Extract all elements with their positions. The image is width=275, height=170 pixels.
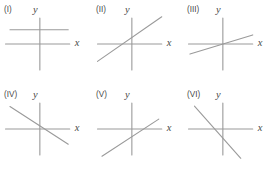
y-axis-label: y xyxy=(32,89,38,100)
diagram-panel-grid: (I)yx(II)yx(III)yx(IV)yx(V)yx(VI)yx xyxy=(0,0,275,170)
panel-roman-label: (II) xyxy=(96,5,106,14)
diagram-panel: (VI)yx xyxy=(183,85,275,170)
y-axis-label: y xyxy=(215,4,221,15)
panel-roman-label: (III) xyxy=(187,5,200,14)
panel-roman-label: (V) xyxy=(96,90,107,99)
y-axis-label: y xyxy=(124,4,130,15)
graph-line xyxy=(10,106,68,144)
diagram-panel: (II)yx xyxy=(92,0,184,85)
x-axis-label: x xyxy=(257,122,263,133)
panel-roman-label: (IV) xyxy=(4,90,17,99)
graph-line xyxy=(102,119,159,156)
coordinate-plane: (III)yx xyxy=(183,0,275,85)
x-axis-label: x xyxy=(257,37,263,48)
y-axis-label: y xyxy=(32,4,38,15)
coordinate-plane: (VI)yx xyxy=(183,85,275,170)
x-axis-label: x xyxy=(74,37,80,48)
x-axis-label: x xyxy=(165,37,171,48)
graph-line xyxy=(195,106,241,158)
diagram-panel: (IV)yx xyxy=(0,85,92,170)
panel-roman-label: (VI) xyxy=(187,90,200,99)
panel-roman-label: (I) xyxy=(4,5,12,14)
diagram-panel: (V)yx xyxy=(92,85,184,170)
coordinate-plane: (I)yx xyxy=(0,0,92,85)
diagram-panel: (I)yx xyxy=(0,0,92,85)
coordinate-plane: (II)yx xyxy=(92,0,184,85)
graph-line xyxy=(97,17,161,62)
y-axis-label: y xyxy=(215,89,221,100)
diagram-panel: (III)yx xyxy=(183,0,275,85)
x-axis-label: x xyxy=(165,122,171,133)
x-axis-label: x xyxy=(74,122,80,133)
coordinate-plane: (V)yx xyxy=(92,85,184,170)
y-axis-label: y xyxy=(124,89,130,100)
coordinate-plane: (IV)yx xyxy=(0,85,92,170)
